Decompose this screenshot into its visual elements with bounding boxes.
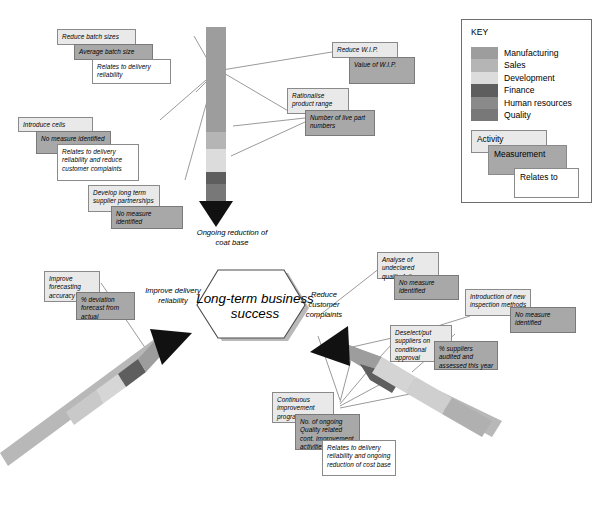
key-legend: KEY Manufacturing Sales Development Fina… <box>461 19 592 203</box>
relates-to-delivery-reliability-2[interactable]: Relates to delivery reliability and redu… <box>57 144 139 181</box>
key-swatch-sales <box>471 59 498 71</box>
key-swatch-development <box>471 72 498 84</box>
measurement-no-measure-identified-4[interactable]: No measure identified <box>510 307 576 333</box>
activity-reduce-wip[interactable]: Reduce W.I.P. <box>332 42 398 58</box>
measurement-suppliers-audited[interactable]: % suppliers audited and assessed this ye… <box>434 341 498 370</box>
key-title: KEY <box>471 27 488 37</box>
diagram-canvas: Long-term business success Ongoing reduc… <box>0 0 600 513</box>
key-swatch-finance <box>471 84 498 96</box>
measurement-deviation-forecast[interactable]: % deviation forecast from actual <box>76 292 135 320</box>
measurement-no-measure-identified-2[interactable]: No measure identified <box>111 206 183 229</box>
relates-to-delivery-reliability-1[interactable]: Relates to delivery reliability <box>92 59 171 84</box>
activity-introduce-cells[interactable]: Introduce cells <box>18 117 93 132</box>
activity-reduce-batch-sizes[interactable]: Reduce batch sizes <box>57 29 136 45</box>
measurement-average-batch-size[interactable]: Average batch size <box>74 44 153 60</box>
key-swatch-manufacturing <box>471 47 498 59</box>
key-swatch-human-resources <box>471 97 498 109</box>
measurement-value-of-wip[interactable]: Value of W.I.P. <box>349 57 415 84</box>
central-hexagon: Long-term business success <box>196 268 314 344</box>
key-label-finance: Finance <box>504 84 535 96</box>
key-label-sales: Sales <box>504 59 526 71</box>
arrow-label-delivery-reliability: Improve delivery reliability <box>144 286 202 306</box>
central-hexagon-label: Long-term business success <box>196 268 314 344</box>
key-label-quality: Quality <box>504 109 531 121</box>
measurement-no-measure-identified-3[interactable]: No measure identified <box>394 275 459 300</box>
measurement-live-part-numbers[interactable]: Number of live part numbers <box>305 110 375 136</box>
key-label-human-resources: Human resources <box>504 97 572 109</box>
arrow-label-cost-base: Ongoing reduction of coat base <box>196 228 268 248</box>
key-swatch-quality <box>471 109 498 121</box>
key-label-manufacturing: Manufacturing <box>504 47 558 59</box>
key-shape-relates-to: Relates to <box>514 168 579 198</box>
relates-to-delivery-reliability-3[interactable]: Relates to delivery reliability and ongo… <box>322 440 396 476</box>
key-label-development: Development <box>504 72 555 84</box>
